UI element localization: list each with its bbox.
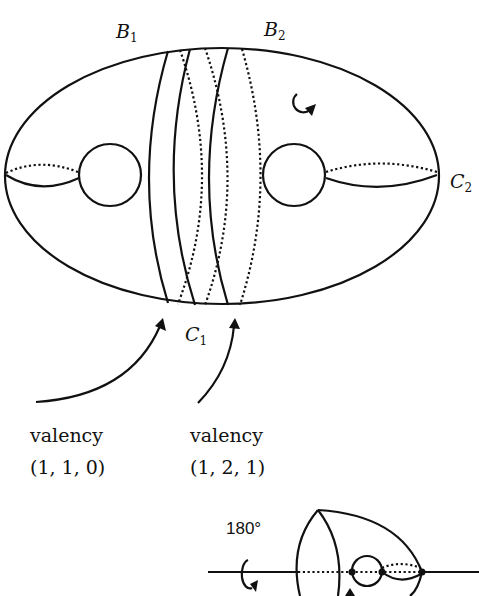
pointer-arrow-icon bbox=[198, 318, 240, 403]
curve-b1-front-a bbox=[149, 51, 168, 303]
annotation-valency-1-title: valency bbox=[29, 424, 103, 446]
rotation-axis-arrow-icon bbox=[242, 560, 258, 592]
half-surface-figure: 180° bbox=[208, 510, 479, 596]
label-c2: C2 bbox=[450, 170, 472, 195]
annotation-valency-2-title: valency bbox=[189, 424, 263, 446]
rotation-arrow-icon bbox=[293, 94, 316, 116]
left-handle-front bbox=[6, 175, 79, 186]
label-b1: B1 bbox=[115, 20, 138, 45]
right-handle-front bbox=[326, 175, 437, 187]
outer-surface bbox=[5, 48, 439, 304]
left-handle-back bbox=[6, 165, 78, 173]
curve-b2-front bbox=[209, 48, 228, 305]
label-b2: B2 bbox=[263, 18, 286, 43]
rotation-label: 180° bbox=[226, 519, 261, 538]
genus-surface-diagram: B1 B2 C2 C1 valency (1, 1, 0) valency (1… bbox=[0, 0, 479, 596]
label-c1: C1 bbox=[185, 323, 207, 348]
right-handle-back bbox=[326, 164, 437, 173]
annotation-valency-2-value: (1, 2, 1) bbox=[190, 456, 265, 478]
curve-b2-back-b bbox=[240, 49, 261, 305]
pointer-arrow-icon bbox=[36, 318, 166, 402]
annotation-valency-1-value: (1, 1, 0) bbox=[30, 456, 105, 478]
right-hole bbox=[263, 144, 325, 206]
left-hole bbox=[79, 144, 141, 206]
